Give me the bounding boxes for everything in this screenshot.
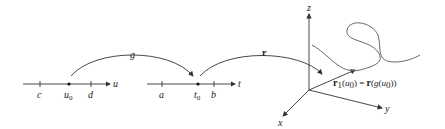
u-axis-label: u [113, 78, 118, 89]
t-axis-label: t [238, 78, 241, 89]
u0-point [67, 82, 70, 85]
y-axis-label: y [384, 103, 390, 114]
u-axis: u c u0 d [23, 78, 118, 102]
equation-label: r1(u0) = r(g(u0)) [333, 77, 396, 90]
z-axis-label: z [306, 2, 311, 13]
t0-point [196, 82, 199, 85]
tick-t0-label: t0 [194, 89, 201, 102]
tick-b-label: b [211, 89, 216, 100]
map-g-label: g [130, 49, 135, 60]
tick-d-label: d [88, 89, 94, 100]
tick-a-label: a [159, 89, 164, 100]
map-g-arrow: g [71, 49, 193, 76]
t-axis: t a t0 b [147, 78, 241, 102]
axes-3d: z y x [277, 2, 390, 128]
tick-c-label: c [37, 89, 42, 100]
reparametrization-diagram: u c u0 d t a t0 b g r z y x r1(u0) = r( [0, 0, 445, 129]
map-r-label: r [262, 47, 267, 58]
x-axis-label: x [277, 117, 283, 128]
space-curve [312, 23, 420, 71]
map-r-arrow: r [200, 47, 322, 76]
tick-u0-label: u0 [64, 89, 73, 102]
